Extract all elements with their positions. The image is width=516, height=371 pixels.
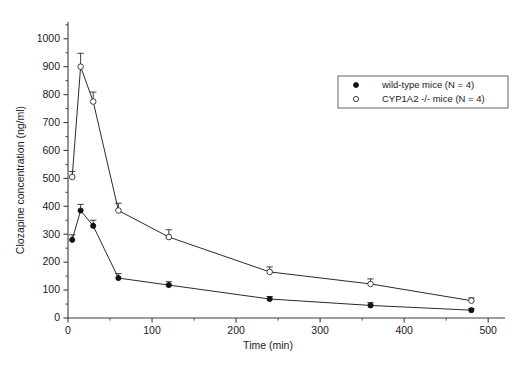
y-tick-label: 700 <box>42 116 60 128</box>
y-tick-label: 400 <box>42 200 60 212</box>
data-point <box>90 99 96 105</box>
y-tick-label: 0 <box>54 311 60 323</box>
data-point <box>116 208 122 214</box>
data-point <box>91 223 96 228</box>
data-point <box>469 308 474 313</box>
chart-legend: wild-type mice (N = 4)CYP1A2 -/- mice (N… <box>338 76 508 108</box>
y-axis-ticks: 01002003004005006007008009001000 <box>37 25 68 323</box>
x-axis-ticks: 0100200300400500 <box>65 318 497 336</box>
legend-marker-open-circle-icon <box>353 96 358 101</box>
data-point <box>368 303 373 308</box>
data-point <box>70 237 75 242</box>
y-tick-label: 100 <box>42 283 60 295</box>
x-axis-label: Time (min) <box>243 339 293 351</box>
y-axis-label: Clozapine concentration (ng/ml) <box>14 106 26 254</box>
series-wild-type <box>69 204 475 312</box>
x-tick-label: 400 <box>395 324 413 336</box>
data-point <box>69 174 75 180</box>
data-point <box>78 64 84 70</box>
legend-label: CYP1A2 -/- mice (N = 4) <box>382 93 485 104</box>
data-point <box>116 275 121 280</box>
x-tick-label: 100 <box>143 324 161 336</box>
y-tick-label: 500 <box>42 172 60 184</box>
data-point <box>267 296 272 301</box>
data-point <box>166 282 171 287</box>
x-tick-label: 500 <box>479 324 497 336</box>
chart-figure: 01002003004005006007008009001000 0100200… <box>0 0 516 371</box>
clozapine-concentration-line-chart: 01002003004005006007008009001000 0100200… <box>0 0 516 371</box>
y-tick-label: 1000 <box>37 32 61 44</box>
x-tick-label: 200 <box>227 324 245 336</box>
y-tick-label: 600 <box>42 144 60 156</box>
x-tick-label: 300 <box>311 324 329 336</box>
data-point <box>368 281 374 287</box>
legend-marker-filled-circle-icon <box>354 83 359 88</box>
data-point <box>78 208 83 213</box>
data-point <box>267 269 273 275</box>
data-point <box>166 234 172 240</box>
y-tick-label: 200 <box>42 255 60 267</box>
legend-label: wild-type mice (N = 4) <box>381 79 474 90</box>
y-tick-label: 900 <box>42 60 60 72</box>
y-tick-label: 800 <box>42 88 60 100</box>
data-point <box>469 298 475 304</box>
x-tick-label: 0 <box>65 324 71 336</box>
y-tick-label: 300 <box>42 228 60 240</box>
